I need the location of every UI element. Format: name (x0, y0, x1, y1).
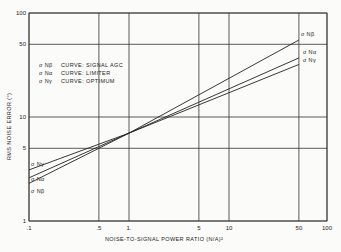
svg-text:CURVE: SIGNAL AGC: CURVE: SIGNAL AGC (61, 62, 123, 68)
svg-text:σ Nβ: σ Nβ (301, 31, 315, 37)
svg-text:σ Nβ: σ Nβ (39, 62, 53, 68)
svg-text:50: 50 (19, 41, 26, 47)
svg-text:σ Nγ: σ Nγ (39, 78, 52, 84)
svg-text:100: 100 (322, 225, 333, 231)
chart: .1.51.51050100151050100 σ Nβσ Nβσ Nασ Nα… (0, 0, 341, 252)
svg-text:5: 5 (197, 225, 201, 231)
svg-text:10: 10 (19, 114, 26, 120)
tick-labels: .1.51.51050100151050100 (16, 10, 333, 231)
svg-text:CURVE: OPTIMUM: CURVE: OPTIMUM (61, 78, 115, 84)
x-axis-label: NOISE-TO-SIGNAL POWER RATIO (N/A)² (105, 236, 223, 242)
svg-text:1: 1 (23, 218, 27, 224)
svg-text:σ Nγ: σ Nγ (303, 57, 316, 63)
legend: σ NβCURVE: SIGNAL AGCσ NαCURVE: LIMITERσ… (39, 62, 123, 84)
svg-text:.1: .1 (26, 225, 32, 231)
series-labels: σ Nβσ Nβσ Nασ Nασ Nγσ Nγ (31, 31, 317, 194)
svg-text:100: 100 (16, 10, 27, 16)
svg-text:CURVE: LIMITER: CURVE: LIMITER (61, 70, 111, 76)
svg-text:σ Nα: σ Nα (31, 176, 45, 182)
svg-text:σ Nα: σ Nα (303, 49, 317, 55)
svg-text:5: 5 (23, 145, 27, 151)
svg-text:1.: 1. (126, 225, 131, 231)
svg-text:10: 10 (226, 225, 233, 231)
y-axis-label: RMS NOISE ERROR (°) (6, 93, 12, 160)
svg-text:.5: .5 (96, 225, 102, 231)
grid (29, 13, 327, 221)
svg-text:σ Nγ: σ Nγ (31, 161, 44, 167)
svg-text:50: 50 (296, 225, 303, 231)
svg-text:σ Nα: σ Nα (39, 70, 53, 76)
svg-text:σ Nβ: σ Nβ (31, 188, 45, 194)
